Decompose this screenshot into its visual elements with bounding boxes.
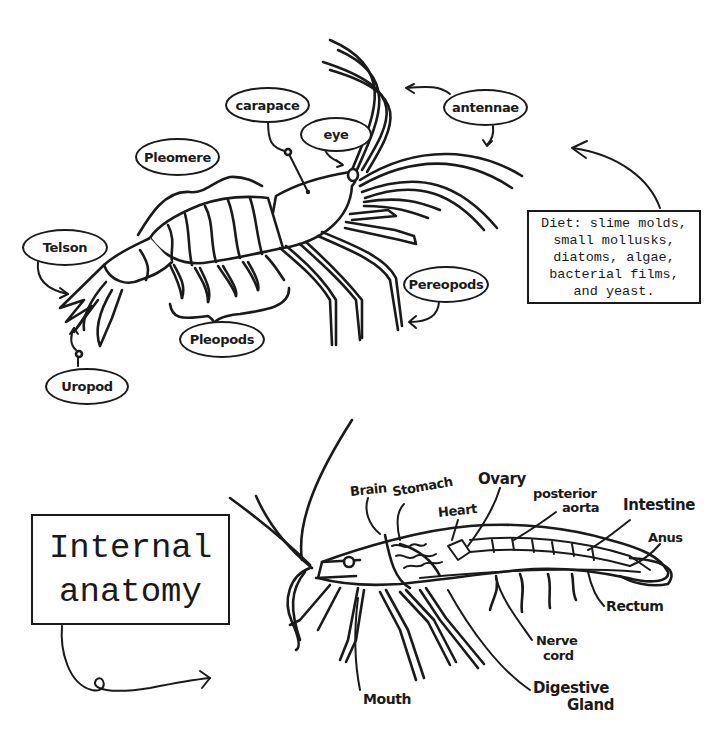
title-line-2: anatomy	[59, 570, 202, 614]
diet-info-box: Diet: slime molds, small mollusks, diato…	[527, 210, 701, 304]
label-posterior-aorta-2: aorta	[562, 501, 599, 515]
internal-shrimp-illustration	[230, 420, 672, 680]
label-antennae-text: antennae	[452, 100, 519, 115]
label-uropod-text: Uropod	[61, 379, 113, 394]
label-pleopods-text: Pleopods	[190, 332, 255, 347]
label-pleopods: Pleopods	[179, 321, 265, 358]
diet-line-2: small mollusks,	[553, 232, 675, 249]
label-ovary: Ovary	[478, 472, 526, 486]
label-telson: Telson	[22, 229, 108, 266]
internal-anatomy-title-box: Internal anatomy	[31, 514, 230, 625]
label-posterior-aorta-1: posterior	[533, 487, 597, 501]
label-digestive-gland-1: Digestive	[533, 681, 609, 695]
label-pereopods-text: Pereopods	[408, 277, 483, 292]
label-pereopods: Pereopods	[403, 266, 489, 303]
label-nerve-cord-2: cord	[543, 649, 574, 663]
label-carapace-text: carapace	[236, 98, 300, 113]
label-carapace: carapace	[225, 87, 310, 123]
label-intestine: Intestine	[623, 498, 695, 512]
label-mouth: Mouth	[363, 692, 411, 706]
title-line-1: Internal	[49, 526, 212, 570]
diet-line-4: bacterial films,	[549, 266, 679, 283]
label-rectum: Rectum	[606, 599, 663, 613]
diet-line-3: diatoms, algae,	[553, 249, 675, 266]
label-anus: Anus	[648, 531, 683, 545]
diet-line-5: and yeast.	[573, 283, 654, 300]
label-antennae: antennae	[443, 89, 528, 126]
label-eye: eye	[300, 117, 372, 152]
label-pleomere: Pleomere	[135, 138, 220, 176]
label-nerve-cord-1: Nerve	[536, 634, 577, 648]
diet-line-1: Diet: slime molds,	[541, 215, 687, 232]
label-digestive-gland-2: Gland	[567, 698, 614, 712]
label-pleomere-text: Pleomere	[144, 150, 211, 165]
label-telson-text: Telson	[43, 240, 88, 255]
label-uropod: Uropod	[45, 368, 129, 405]
shrimp-diagram-drawing	[0, 0, 725, 739]
label-eye-text: eye	[323, 127, 348, 142]
